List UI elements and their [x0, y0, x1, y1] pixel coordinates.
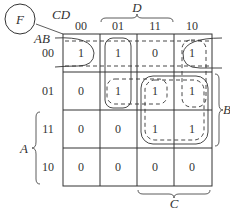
col-header: 01 — [112, 19, 124, 33]
brace-right — [215, 74, 223, 146]
cell-r3c0: 0 — [78, 160, 84, 174]
function-label: F — [15, 12, 25, 27]
cell-r3c2: 0 — [152, 160, 158, 174]
brace-left-label: A — [19, 141, 28, 156]
row-var-label: AB — [33, 31, 50, 46]
cell-r1c3: 1 — [189, 84, 195, 98]
cell-r0c1: 1 — [115, 46, 121, 60]
cell-r2c2: 1 — [152, 122, 158, 136]
cell-r0c3: 1 — [189, 46, 195, 60]
brace-left — [32, 112, 40, 184]
group-wrap-left — [55, 38, 94, 67]
cell-r1c2: 1 — [152, 84, 158, 98]
cell-r1c1: 1 — [115, 84, 121, 98]
cell-r3c1: 0 — [115, 160, 121, 174]
row-header: 11 — [42, 122, 54, 136]
col-header: 00 — [75, 19, 87, 33]
col-var-label: CD — [52, 7, 71, 22]
cell-r0c2: 0 — [152, 46, 158, 60]
cell-r1c0: 0 — [78, 84, 84, 98]
brace-top-label: D — [131, 0, 142, 15]
karnaugh-map: F CD AB 00 01 11 10 00 01 11 10 1 1 0 1 … — [0, 0, 230, 210]
cell-r0c0: 1 — [78, 46, 84, 60]
col-header: 11 — [149, 19, 161, 33]
cell-r2c0: 0 — [78, 122, 84, 136]
brace-bottom-label: C — [170, 196, 179, 210]
cell-r3c3: 0 — [189, 160, 195, 174]
row-header: 10 — [42, 160, 54, 174]
row-header: 01 — [42, 84, 54, 98]
row-header: 00 — [42, 46, 54, 60]
cell-r2c1: 0 — [115, 122, 121, 136]
brace-right-label: B — [223, 102, 230, 117]
col-header: 10 — [186, 19, 198, 33]
cell-r2c3: 1 — [189, 122, 195, 136]
